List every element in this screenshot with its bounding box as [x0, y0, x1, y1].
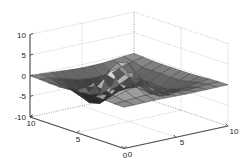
- z-tick-label-1: 5: [22, 51, 27, 60]
- y-tick-label-1: 5: [76, 135, 81, 144]
- x-tick-label-1: 5: [180, 138, 185, 147]
- x-tick-label-0: 0: [128, 150, 133, 159]
- z-tick-label-2: 0: [22, 72, 27, 81]
- z-tick-label-3: -5: [19, 92, 27, 101]
- surface-plot-canvas[interactable]: 1050-5-1010500510: [0, 0, 247, 168]
- z-tick-label-4: -10: [14, 113, 26, 122]
- z-tick-label-0: 10: [17, 31, 26, 40]
- y-tick-label-0: 10: [27, 119, 36, 128]
- x-tick-label-2: 10: [230, 127, 239, 136]
- surface-plot-figure: 1050-5-1010500510: [0, 0, 247, 168]
